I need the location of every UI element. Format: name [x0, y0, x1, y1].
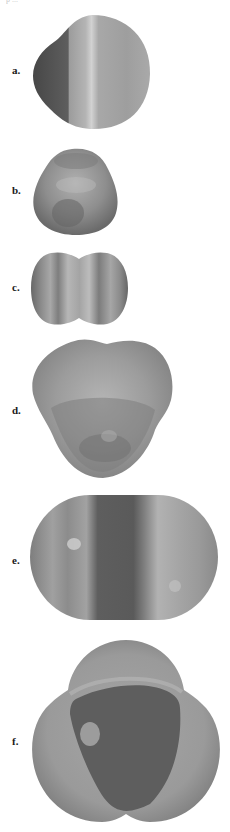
panel-label-a: a. [12, 64, 20, 76]
panel-label-b: b. [12, 184, 21, 196]
panel-d-surface [31, 338, 175, 479]
panel-b-surface [32, 147, 120, 237]
panel-c-surface [31, 251, 128, 326]
panel-label-d: d. [12, 404, 21, 416]
panel-f-surface [30, 638, 223, 826]
panel-label-f: f. [12, 735, 18, 747]
panel-e-surface [30, 494, 218, 621]
panel-label-c: c. [12, 281, 20, 293]
panel-label-e: e. [12, 554, 20, 566]
panel-a-surface [32, 14, 152, 130]
running-header: p ... [6, 0, 226, 4]
